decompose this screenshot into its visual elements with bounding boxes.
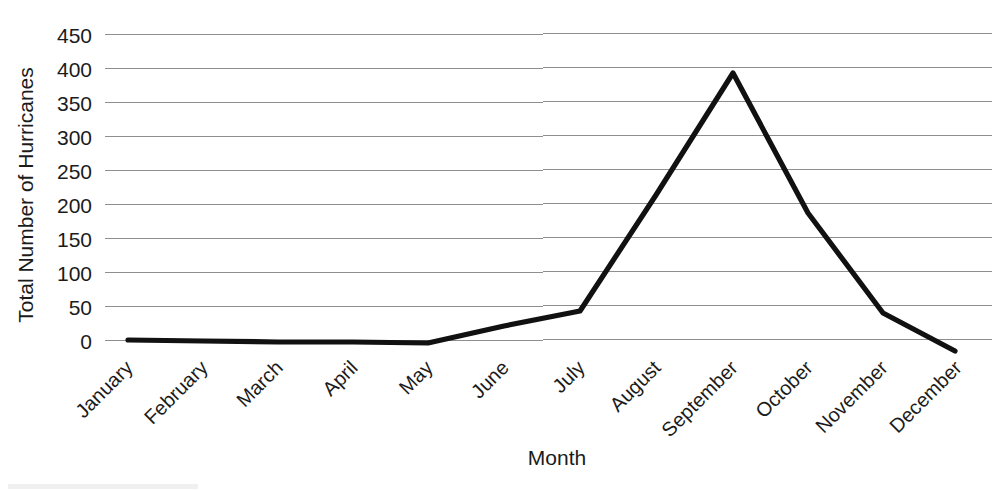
gridline-400 <box>105 67 992 69</box>
y-tick-label-0: 0 <box>80 330 92 353</box>
gridline-150 <box>105 237 992 239</box>
y-tick-label-50: 50 <box>69 296 92 319</box>
x-tick-label-april: April <box>318 356 362 400</box>
x-tick-label-august: August <box>605 356 665 416</box>
chart-canvas: 450 400 350 300 250 200 150 100 50 0 Tot… <box>0 0 1006 490</box>
gridline-200 <box>105 203 992 205</box>
series-line-hurricanes <box>128 73 955 351</box>
x-tick-label-october: October <box>751 356 817 422</box>
x-tick-label-november: November <box>811 356 892 437</box>
x-tick-label-may: May <box>395 356 437 398</box>
gridline-350 <box>105 101 992 103</box>
series-hurricanes <box>128 73 955 351</box>
gridline-450 <box>105 33 992 35</box>
scan-artifact <box>8 484 198 489</box>
y-tick-label-400: 400 <box>57 58 92 81</box>
y-tick-label-150: 150 <box>57 228 92 251</box>
hurricane-line-chart: 450 400 350 300 250 200 150 100 50 0 Tot… <box>0 0 1006 490</box>
x-axis-title: Month <box>528 446 586 469</box>
y-tick-label-300: 300 <box>57 126 92 149</box>
y-axis-title: Total Number of Hurricanes <box>14 67 37 323</box>
y-axis-title-group: Total Number of Hurricanes <box>14 67 37 323</box>
x-axis-tick-labels: January February March April May June Ju… <box>71 356 966 441</box>
y-tick-label-100: 100 <box>57 262 92 285</box>
y-tick-label-250: 250 <box>57 160 92 183</box>
x-axis-title-group: Month <box>528 446 586 469</box>
y-tick-label-350: 350 <box>57 92 92 115</box>
x-tick-label-january: January <box>71 356 137 422</box>
gridlines <box>105 33 992 341</box>
y-tick-label-450: 450 <box>57 24 92 47</box>
gridline-100 <box>105 271 992 273</box>
y-axis-tick-labels: 450 400 350 300 250 200 150 100 50 0 <box>57 24 92 353</box>
x-tick-label-december: December <box>885 356 966 437</box>
gridline-50 <box>105 305 992 307</box>
gridline-250 <box>105 169 992 171</box>
x-tick-label-june: June <box>467 356 513 402</box>
x-tick-label-february: February <box>140 356 212 428</box>
gridline-300 <box>105 135 992 137</box>
y-tick-label-200: 200 <box>57 194 92 217</box>
x-tick-label-march: March <box>232 356 287 411</box>
x-tick-label-july: July <box>548 356 589 397</box>
scan-smudge-bottom-left <box>8 484 198 489</box>
x-tick-label-september: September <box>657 356 742 441</box>
